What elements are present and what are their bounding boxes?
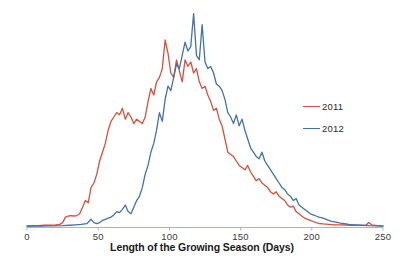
x-axis-title: Length of the Growing Season (Days)	[0, 241, 404, 253]
axis-group	[27, 228, 383, 231]
legend-item-2011[interactable]: 2011	[303, 95, 387, 117]
chart-legend: 20112012	[303, 95, 387, 139]
legend-label-2012: 2012	[322, 123, 344, 134]
legend-label-2011: 2011	[322, 101, 343, 112]
legend-swatch-icon-2012	[303, 128, 320, 129]
legend-swatch-icon-2011	[303, 106, 320, 107]
growing-season-line-chart: 050100150200250 Length of the Growing Se…	[0, 0, 404, 273]
legend-item-2012[interactable]: 2012	[303, 117, 387, 139]
